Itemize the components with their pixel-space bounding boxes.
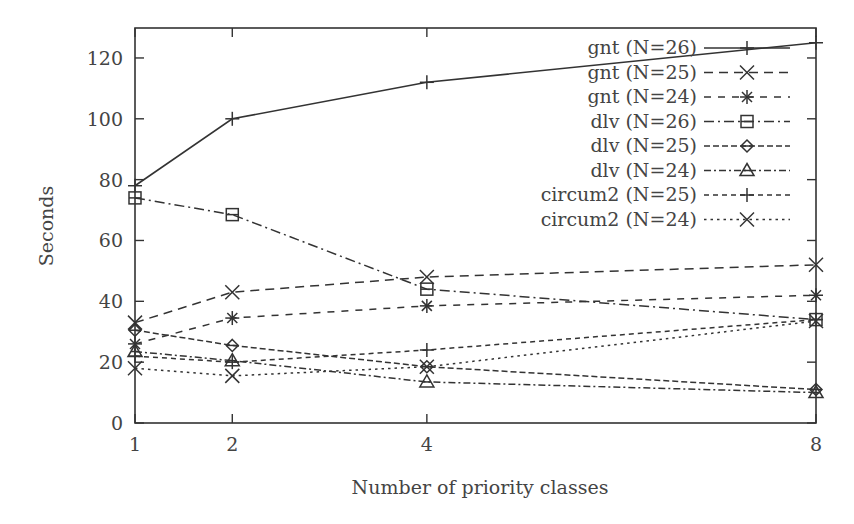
legend-label: gnt (N=24): [587, 85, 697, 107]
x-tick-label: 2: [226, 433, 238, 455]
square-marker-icon: [226, 209, 238, 221]
legend-item: circum2 (N=24): [541, 208, 790, 230]
star-marker-icon: [225, 311, 239, 325]
series-dlv-n-26: [129, 192, 822, 326]
series-line: [135, 352, 816, 393]
square-marker-icon: [421, 283, 433, 295]
x-axis-title: Number of priority classes: [352, 476, 609, 498]
y-axis-title: Seconds: [35, 186, 57, 267]
legend-item: circum2 (N=25): [541, 183, 790, 205]
legend-label: dlv (N=26): [590, 110, 697, 132]
x-tick-label: 8: [810, 433, 822, 455]
series-line: [135, 198, 816, 320]
series-line: [135, 321, 816, 376]
triangle-legend-icon: [740, 164, 754, 176]
series-dlv-n-24: [128, 345, 823, 398]
x-tick-label: 1: [129, 433, 141, 455]
star-marker-icon: [420, 299, 434, 313]
legend: gnt (N=26)gnt (N=25)gnt (N=24)dlv (N=26)…: [541, 36, 790, 230]
plus-legend-icon: [740, 41, 754, 55]
legend-item: dlv (N=25): [590, 134, 790, 156]
x-axis: 1248: [129, 28, 822, 455]
y-axis: 020406080100120: [87, 47, 816, 434]
legend-item: gnt (N=25): [587, 61, 790, 83]
plus-marker-icon: [809, 36, 823, 50]
legend-item: gnt (N=26): [587, 36, 790, 58]
star-marker-icon: [809, 288, 823, 302]
legend-item: dlv (N=24): [590, 159, 790, 181]
plus-marker-icon: [809, 313, 823, 327]
y-tick-label: 0: [111, 412, 123, 434]
plus-marker-icon: [128, 179, 142, 193]
series-gnt-n-24: [128, 288, 823, 351]
y-tick-label: 120: [87, 47, 123, 69]
plus-marker-icon: [420, 343, 434, 357]
plus-marker-icon: [420, 75, 434, 89]
legend-label: circum2 (N=24): [541, 208, 697, 230]
plus-marker-icon: [128, 349, 142, 363]
legend-label: gnt (N=26): [587, 36, 697, 58]
star-legend-icon: [740, 90, 754, 104]
legend-label: circum2 (N=25): [541, 183, 697, 205]
legend-item: gnt (N=24): [587, 85, 790, 107]
series-layer: [128, 36, 823, 398]
series-line: [135, 320, 816, 363]
plus-legend-icon: [740, 188, 754, 202]
diamond-legend-icon: [741, 140, 753, 152]
x-tick-label: 4: [421, 433, 433, 455]
legend-label: gnt (N=25): [587, 61, 697, 83]
square-legend-icon: [741, 116, 753, 128]
y-tick-label: 20: [99, 351, 123, 373]
series-line: [135, 43, 816, 186]
legend-label: dlv (N=25): [590, 134, 697, 156]
diamond-marker-icon: [226, 339, 238, 351]
y-tick-label: 40: [99, 290, 123, 312]
plus-marker-icon: [225, 355, 239, 369]
y-tick-label: 80: [99, 169, 123, 191]
y-tick-label: 60: [99, 229, 123, 251]
legend-label: dlv (N=24): [590, 159, 697, 181]
legend-item: dlv (N=26): [590, 110, 790, 132]
line-chart: 020406080100120 1248 Seconds Number of p…: [0, 0, 854, 524]
series-gnt-n-26: [128, 36, 823, 193]
y-tick-label: 100: [87, 108, 123, 130]
plot-frame: [135, 28, 816, 423]
series-line: [135, 295, 816, 344]
plus-marker-icon: [225, 112, 239, 126]
